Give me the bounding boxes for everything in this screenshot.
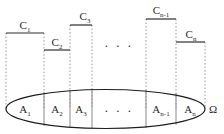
partition-diagram: C1 C2 C3 Cn-1 Cn . . . A1 A2 A3 An-1 An … [0, 0, 224, 134]
set-label-an-1-base: A [152, 103, 160, 115]
set-label-a2: A2 [51, 103, 63, 118]
set-label-a3-base: A [75, 103, 83, 115]
bar-label-c2: C2 [52, 36, 63, 51]
omega-symbol: Ω [209, 103, 217, 115]
bar-label-c1-base: C [20, 19, 27, 31]
top-ellipsis: . . . [105, 35, 134, 50]
bar-label-c2-base: C [52, 36, 59, 48]
bar-label-cn-1: Cn-1 [153, 4, 170, 19]
bar-label-cn: Cn [186, 28, 197, 43]
set-label-a1-base: A [19, 103, 27, 115]
set-label-a3: A3 [75, 103, 87, 118]
set-label-an-sub: n [192, 110, 196, 118]
set-label-an-1-sub: n-1 [160, 110, 170, 118]
bar-label-c3-sub: 3 [87, 17, 91, 25]
set-label-a2-sub: 2 [59, 110, 63, 118]
set-label-a1: A1 [19, 103, 31, 118]
bar-label-cn-base: C [186, 28, 193, 40]
set-label-a3-sub: 3 [83, 110, 87, 118]
set-label-a2-base: A [51, 103, 59, 115]
set-label-an-1: An-1 [152, 103, 170, 118]
set-label-a1-sub: 1 [27, 110, 31, 118]
bar-label-cn-1-sub: n-1 [160, 11, 170, 19]
bar-label-c1-sub: 1 [27, 26, 31, 34]
ellipse-ellipsis: . . . [105, 100, 134, 115]
set-label-an-base: A [184, 103, 192, 115]
bar-label-c1: C1 [20, 19, 31, 34]
bar-label-cn-1-base: C [153, 4, 160, 16]
bar-label-c2-sub: 2 [59, 43, 63, 51]
bar-label-c3-base: C [80, 10, 87, 22]
set-label-an: An [184, 103, 196, 118]
bar-label-c3: C3 [80, 10, 91, 25]
bar-label-cn-sub: n [193, 35, 197, 43]
